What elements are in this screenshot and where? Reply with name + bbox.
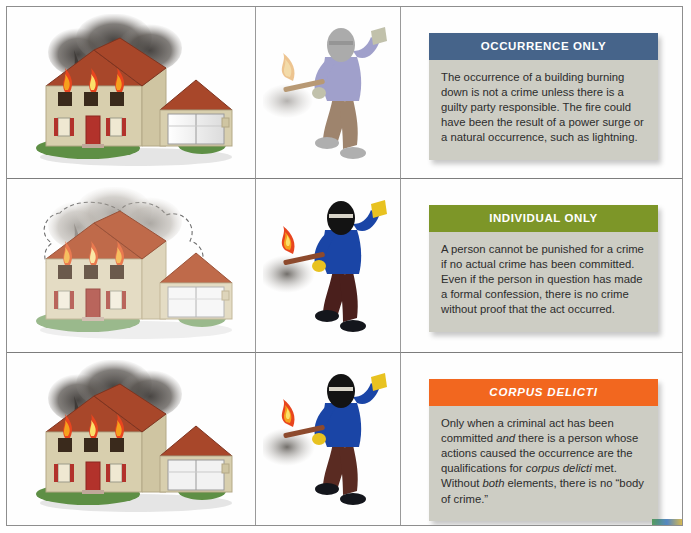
person-cell-individual-only [256,179,401,353]
house-cell-individual-only [7,179,256,353]
callout-header-individual-only: INDIVIDUAL ONLY [429,205,658,232]
callout-body-individual-only: A person cannot be punished for a crime … [429,232,658,332]
arsonist-svg [263,186,393,346]
arsonist-svg [263,13,393,173]
callout-occurrence-only: OCCURRENCE ONLY The occurrence of a buil… [429,33,658,160]
house-svg [16,14,246,172]
callout-header-corpus-delicti: CORPUS DELICTI [429,379,658,406]
color-calibration-strip [652,519,682,525]
callout-body-corpus-delicti: Only when a criminal act has been commit… [429,406,658,521]
callout-cell-individual-only: INDIVIDUAL ONLY A person cannot be punis… [401,179,682,353]
house-svg-faded [16,187,246,345]
arsonist-illustration-solid-2 [256,353,400,525]
house-cell-occurrence-only [7,7,256,179]
arsonist-svg-2 [263,359,393,519]
burning-house-illustration-faded [7,179,255,352]
callout-individual-only: INDIVIDUAL ONLY A person cannot be punis… [429,205,658,332]
callout-cell-occurrence-only: OCCURRENCE ONLY The occurrence of a buil… [401,7,682,179]
callout-cell-corpus-delicti: CORPUS DELICTI Only when a criminal act … [401,353,682,525]
person-cell-corpus-delicti [256,353,401,525]
figure-frame: OCCURRENCE ONLY The occurrence of a buil… [6,6,683,526]
person-cell-occurrence-only [256,7,401,179]
arsonist-illustration-faded [256,7,400,178]
arsonist-illustration-solid-1 [256,179,400,352]
burning-house-illustration [7,7,255,178]
callout-corpus-delicti: CORPUS DELICTI Only when a criminal act … [429,379,658,521]
three-by-three-grid: OCCURRENCE ONLY The occurrence of a buil… [7,7,682,525]
house-svg-2 [16,360,246,518]
callout-header-occurrence-only: OCCURRENCE ONLY [429,33,658,60]
house-cell-corpus-delicti [7,353,256,525]
callout-body-occurrence-only: The occurrence of a building burning dow… [429,60,658,160]
burning-house-illustration-2 [7,353,255,525]
